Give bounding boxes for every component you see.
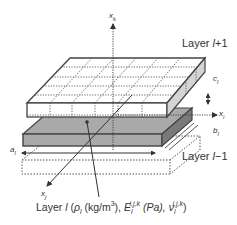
al-dimension-label: al bbox=[10, 145, 16, 156]
pointer-dot bbox=[85, 120, 89, 124]
xj-axis-label: xj bbox=[41, 189, 46, 200]
xi-axis-label: xi bbox=[219, 109, 224, 120]
lower-layer-label: Layer l−1 bbox=[182, 150, 228, 162]
layered-plate-diagram bbox=[0, 0, 237, 225]
bl-dimension-label: bl bbox=[213, 126, 219, 137]
layer-properties-caption: Layer l (ρl (kg/m3), Eli,j,k (Pa), νli,j… bbox=[36, 200, 186, 215]
upper-layer-label: Layer l+1 bbox=[182, 37, 228, 49]
xk-axis-label: xk bbox=[109, 11, 116, 22]
cl-dimension-label: cl bbox=[213, 74, 218, 85]
